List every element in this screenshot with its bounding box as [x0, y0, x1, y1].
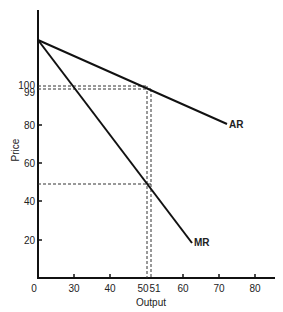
x-tick-60: 60	[177, 283, 189, 294]
x-axis-title: Output	[136, 297, 166, 308]
mr-label: MR	[194, 237, 210, 248]
y-tick-80: 80	[24, 120, 36, 131]
y-tick-20: 20	[24, 235, 36, 246]
y-tick-40: 40	[24, 196, 36, 207]
x-tick-70: 70	[213, 283, 225, 294]
y-axis-title: Price	[10, 138, 21, 161]
x-tick-30: 30	[68, 283, 80, 294]
ar-label: AR	[229, 119, 244, 130]
y-tick-60: 60	[24, 158, 36, 169]
mr-line	[38, 40, 192, 243]
x-tick-51: 51	[149, 283, 161, 294]
chart: AR MR 100 99 80 60 40 20 0 30 40 50 51 6…	[0, 0, 283, 312]
y-tick-99: 99	[24, 87, 36, 98]
x-tick-40: 40	[104, 283, 116, 294]
x-tick-80: 80	[249, 283, 261, 294]
x-tick-50: 50	[137, 283, 149, 294]
x-tick-0: 0	[31, 283, 37, 294]
ar-line	[38, 40, 227, 124]
